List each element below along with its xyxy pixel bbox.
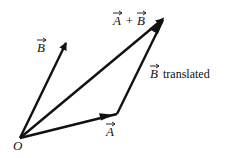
svg-text:B: B (150, 66, 158, 81)
label-origin: O (13, 138, 23, 153)
vector-diagram: B A + B B translated A O (0, 0, 227, 158)
label-a: A (105, 122, 115, 139)
vector-b-arrow (20, 43, 66, 138)
svg-text:A: A (112, 13, 121, 28)
label-b: B (37, 38, 46, 55)
svg-text:+: + (126, 14, 133, 28)
svg-text:translated: translated (163, 67, 210, 81)
svg-text:B: B (37, 40, 45, 55)
sum-arrowhead-icon (149, 17, 164, 34)
svg-text:A: A (105, 124, 114, 139)
svg-text:B: B (137, 13, 145, 28)
label-b-translated: B translated (150, 64, 210, 81)
label-a-plus-b: A + B (112, 11, 146, 28)
diagram-canvas: B A + B B translated A O (0, 0, 227, 158)
